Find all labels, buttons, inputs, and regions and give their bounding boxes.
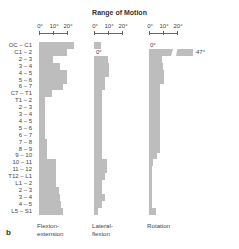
value-annotation: 47°: [196, 49, 205, 56]
panel-label-line1: Rotation: [147, 222, 170, 230]
bar: [149, 208, 156, 215]
bar-segment-truncated: [176, 49, 193, 56]
panel-label: Rotation: [147, 222, 170, 230]
panel-label: Flexion-extension: [37, 222, 64, 237]
panel-label-line1: Flexion-: [37, 222, 64, 230]
row-label: L5 – S1: [11, 208, 32, 215]
axis-tick: [177, 31, 178, 35]
value-annotation: 0°: [95, 49, 103, 56]
axis-tick: [163, 31, 164, 35]
axis-tick: [149, 31, 150, 35]
bar: [94, 208, 98, 215]
value-annotation: 0°: [150, 42, 156, 49]
bar: [39, 208, 63, 215]
panel-label-line1: Lateral-: [92, 222, 113, 230]
panel-label-line2: extension: [37, 230, 64, 238]
panel-label: Lateral-flexion: [92, 222, 113, 237]
axis-tick-label: 10°: [159, 23, 168, 29]
chart-title: Range of Motion: [0, 9, 239, 16]
axis-tick-label: 20°: [173, 23, 182, 29]
scale-axis: 0°10°20°: [0, 23, 239, 35]
axis-tick-label: 0°: [147, 23, 153, 29]
figure-panel-label: b: [6, 228, 11, 237]
panel-label-line2: flexion: [92, 230, 113, 238]
